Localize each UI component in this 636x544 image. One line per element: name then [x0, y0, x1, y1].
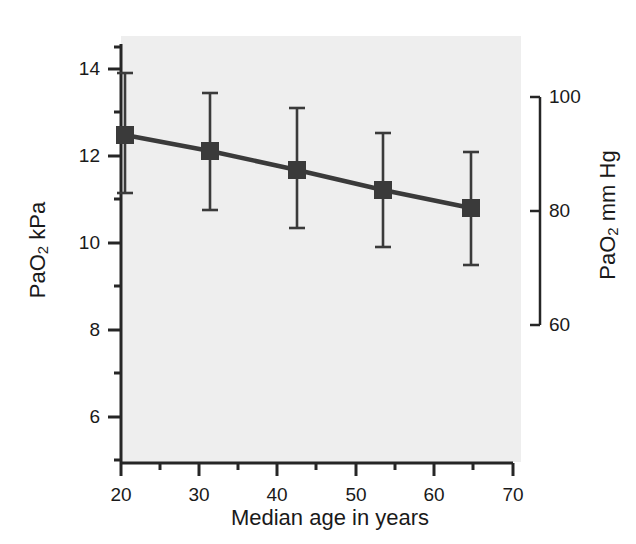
chart-figure: 14 12 10 8 6 20 30 40 50 60 70 100 80 60… — [0, 0, 636, 544]
left-axis-major-ticks — [108, 69, 121, 417]
y2-axis-title-post: mm Hg — [595, 150, 620, 227]
bottom-axis — [121, 463, 513, 476]
y2-axis-tick-label-80: 80 — [549, 200, 570, 222]
x-axis-tick-label-50: 50 — [345, 484, 366, 506]
y2-axis-title-subscript: 2 — [604, 227, 621, 235]
y2-axis-tick-label-100: 100 — [549, 86, 581, 108]
chart-canvas — [0, 0, 636, 544]
y-axis-tick-label-12: 12 — [70, 145, 100, 167]
data-point-marker — [462, 199, 480, 217]
x-axis-tick-label-70: 70 — [502, 484, 523, 506]
y2-axis-title-pre: PaO — [595, 236, 620, 280]
data-point-marker — [288, 161, 306, 179]
x-axis-tick-label-40: 40 — [266, 484, 287, 506]
x-axis-tick-label-60: 60 — [423, 484, 444, 506]
data-point-marker — [116, 126, 134, 144]
data-point-marker — [374, 181, 392, 199]
left-axis — [108, 44, 121, 463]
y-axis-title-subscript: 2 — [34, 246, 51, 254]
right-axis — [530, 97, 540, 325]
y-axis-title: PaO2 kPa — [25, 170, 52, 330]
y-axis-tick-label-6: 6 — [70, 406, 100, 428]
x-axis-title: Median age in years — [231, 505, 429, 531]
x-axis-tick-label-30: 30 — [188, 484, 209, 506]
y-axis-title-post: kPa — [25, 202, 50, 246]
y2-axis-tick-label-60: 60 — [549, 314, 570, 336]
y-axis-tick-label-8: 8 — [70, 319, 100, 341]
y-axis-tick-label-14: 14 — [70, 58, 100, 80]
right-axis-major-ticks — [530, 97, 540, 325]
y-axis-title-pre: PaO — [25, 254, 50, 298]
data-point-marker — [201, 142, 219, 160]
y-axis-tick-label-10: 10 — [70, 232, 100, 254]
x-axis-tick-label-20: 20 — [110, 484, 131, 506]
y2-axis-title: PaO2 mm Hg — [595, 115, 622, 315]
